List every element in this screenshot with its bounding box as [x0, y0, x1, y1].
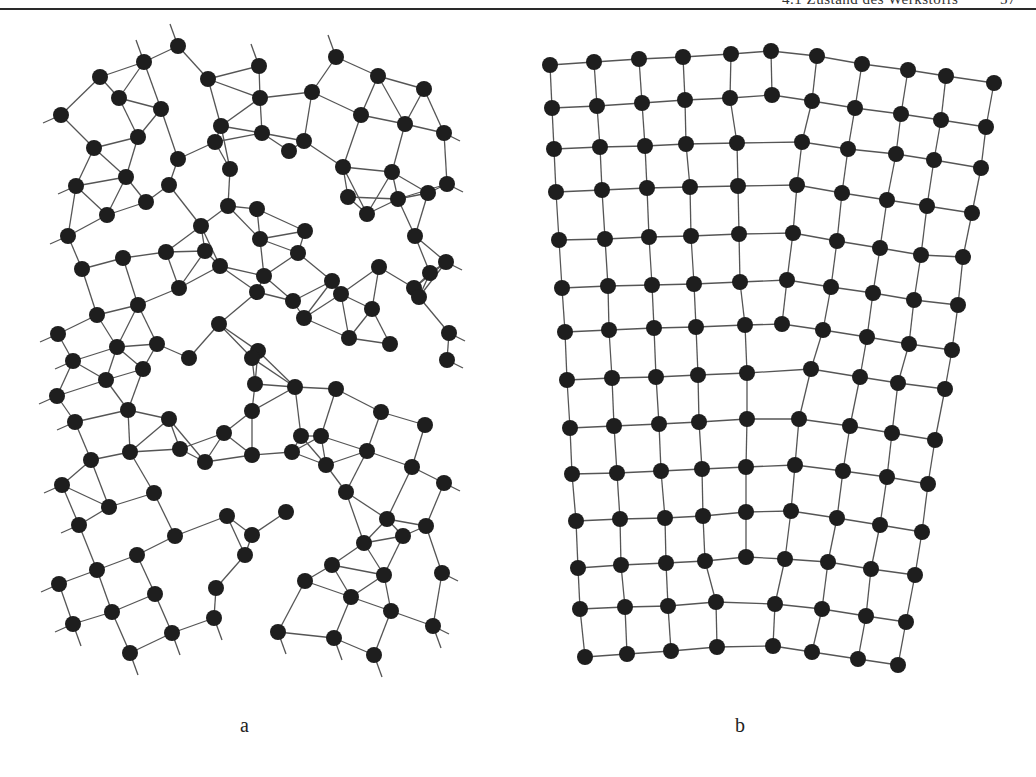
atom-node [898, 614, 914, 630]
bond-line [312, 92, 361, 115]
atom-node [723, 46, 739, 62]
atom-node [281, 143, 297, 159]
atom-node [439, 352, 455, 368]
atom-node [252, 90, 268, 106]
bond-line [739, 233, 793, 234]
atom-node [675, 49, 691, 65]
atom-node [651, 416, 667, 432]
atom-node [764, 87, 780, 103]
atom-node [104, 604, 120, 620]
atom-node [548, 184, 564, 200]
atom-node [739, 411, 755, 427]
atom-node [244, 403, 260, 419]
atom-node [950, 297, 966, 313]
atom-node [383, 603, 399, 619]
atom-node [920, 476, 936, 492]
atom-node [211, 316, 227, 332]
bond-line [278, 632, 334, 638]
atom-node [678, 136, 694, 152]
atom-node [559, 372, 575, 388]
atom-node [729, 135, 745, 151]
atom-node [763, 43, 779, 59]
atom-node [653, 463, 669, 479]
atom-node [732, 274, 748, 290]
atom-node [416, 81, 432, 97]
atom-node [592, 139, 608, 155]
atom-node [170, 38, 186, 54]
atom-node [418, 518, 434, 534]
atom-node [913, 247, 929, 263]
atom-node [135, 361, 151, 377]
atom-node [147, 586, 163, 602]
atom-node [730, 178, 746, 194]
atom-node [118, 169, 134, 185]
atom-node [436, 475, 452, 491]
atom-node [779, 272, 795, 288]
atom-node [54, 477, 70, 493]
atom-node [722, 90, 738, 106]
atom-node [138, 194, 154, 210]
atom-node [164, 625, 180, 641]
bond-line [433, 573, 442, 626]
atom-node [60, 228, 76, 244]
atom-node [170, 151, 186, 167]
atom-node [304, 84, 320, 100]
atom-node [708, 594, 724, 610]
atom-node [803, 361, 819, 377]
atom-node [197, 454, 213, 470]
atom-node [254, 125, 270, 141]
atom-node [213, 118, 229, 134]
atom-node [619, 646, 635, 662]
bond-line [208, 79, 260, 98]
atom-node [278, 504, 294, 520]
atom-node [200, 71, 216, 87]
atom-node [359, 206, 375, 222]
atom-node [859, 329, 875, 345]
atom-node [359, 443, 375, 459]
atom-node [181, 350, 197, 366]
atom-node [379, 511, 395, 527]
atom-node [731, 226, 747, 242]
atom-node [83, 452, 99, 468]
atom-node [65, 353, 81, 369]
atom-node [691, 414, 707, 430]
bond-line [346, 492, 364, 543]
atom-node [341, 330, 357, 346]
atom-node [256, 268, 272, 284]
atom-node [297, 573, 313, 589]
atom-node [809, 48, 825, 64]
atom-node [695, 508, 711, 524]
atom-node [333, 286, 349, 302]
atom-node [663, 643, 679, 659]
atom-node [417, 417, 433, 433]
atom-node [51, 576, 67, 592]
atom-node [364, 301, 380, 317]
atom-node [313, 428, 329, 444]
atom-node [407, 228, 423, 244]
bond-line [278, 581, 305, 632]
atom-node [153, 101, 169, 117]
atom-node [890, 657, 906, 673]
atom-node [986, 75, 1002, 91]
atom-node [74, 261, 90, 277]
atom-node [815, 322, 831, 338]
atom-node [606, 418, 622, 434]
bond-line [716, 602, 775, 604]
atom-node [774, 316, 790, 332]
atom-node [783, 503, 799, 519]
atom-node [834, 185, 850, 201]
atom-node [171, 280, 187, 296]
atom-node [252, 231, 268, 247]
bond-line [61, 77, 100, 115]
atom-node [597, 231, 613, 247]
atom-node [551, 232, 567, 248]
caption-a: a [240, 714, 249, 737]
atom-node [926, 152, 942, 168]
atom-node [900, 62, 916, 78]
atom-node [130, 129, 146, 145]
atom-node [89, 307, 105, 323]
atom-node [207, 134, 223, 150]
atom-node [955, 249, 971, 265]
atom-node [353, 107, 369, 123]
atom-node [660, 598, 676, 614]
